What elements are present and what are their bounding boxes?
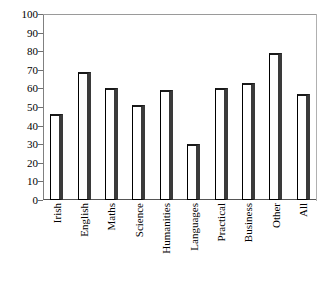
x-axis-tick-label: Irish (51, 203, 62, 223)
bar-slot (269, 14, 282, 200)
y-axis-tick-label: 20 (4, 157, 38, 168)
bar-slot (187, 14, 200, 200)
y-axis-tick-mark (38, 33, 43, 34)
y-axis-tick-mark (38, 14, 43, 15)
y-axis-tick-mark (38, 181, 43, 182)
x-axis-label-slot: Maths (98, 203, 125, 286)
x-axis-tick-label: Maths (106, 203, 117, 231)
bar-slot (105, 14, 118, 200)
y-axis-tick-label: 60 (4, 83, 38, 94)
bar (297, 94, 310, 200)
y-axis-tick-label: 40 (4, 120, 38, 131)
y-axis-tick-mark (38, 107, 43, 108)
x-axis-label-slot: Languages (180, 203, 207, 286)
bar (187, 144, 200, 200)
x-axis-label-slot: Other (262, 203, 289, 286)
bar (50, 114, 63, 200)
y-axis-tick-label: 0 (4, 195, 38, 206)
x-axis-labels: IrishEnglishMathsScienceHumanitiesLangua… (43, 203, 317, 286)
caption-remnant (30, 0, 150, 5)
bar-slot (160, 14, 173, 200)
bar-slot (297, 14, 310, 200)
x-axis-tick-label: Other (270, 203, 281, 228)
x-axis-tick-label: Humanities (161, 203, 172, 254)
y-axis-tick-mark (38, 51, 43, 52)
bar-series (43, 14, 317, 200)
y-axis-tick-mark (38, 70, 43, 71)
x-axis-label-slot: Science (125, 203, 152, 286)
y-axis-tick-label: 80 (4, 46, 38, 57)
x-axis-tick-label: All (298, 203, 309, 217)
y-axis-tick-label: 100 (4, 9, 38, 20)
x-axis-tick-label: Practical (216, 203, 227, 241)
y-axis-tick-label: 70 (4, 64, 38, 75)
y-axis-tick-mark (38, 163, 43, 164)
bar (160, 90, 173, 200)
y-axis-tick-label: 10 (4, 176, 38, 187)
x-axis-label-slot: Irish (43, 203, 70, 286)
bar (105, 88, 118, 200)
bar (269, 53, 282, 200)
bar-slot (132, 14, 145, 200)
x-axis-label-slot: Practical (207, 203, 234, 286)
x-axis-tick-label: Business (243, 203, 254, 242)
bar-chart-figure: 1009080706050403020100 IrishEnglishMaths… (0, 0, 323, 286)
bar (78, 72, 91, 200)
x-axis-label-slot: Humanities (153, 203, 180, 286)
y-axis-tick-label: 50 (4, 102, 38, 113)
x-axis-tick-label: English (79, 203, 90, 237)
x-axis-label-slot: Business (235, 203, 262, 286)
x-axis-label-slot: English (70, 203, 97, 286)
y-axis-tick-label: 30 (4, 139, 38, 150)
bar (215, 88, 228, 200)
bar (132, 105, 145, 200)
y-axis-tick-mark (38, 88, 43, 89)
bar-slot (242, 14, 255, 200)
bar (242, 83, 255, 200)
bar-slot (50, 14, 63, 200)
y-axis-tick-mark (38, 144, 43, 145)
x-axis-tick-label: Science (133, 203, 144, 237)
x-axis-tick-label: Languages (188, 203, 199, 251)
x-axis-label-slot: All (290, 203, 317, 286)
bar-slot (215, 14, 228, 200)
bar-slot (78, 14, 91, 200)
y-axis-tick-mark (38, 126, 43, 127)
y-axis: 1009080706050403020100 (0, 0, 38, 286)
y-axis-tick-label: 90 (4, 27, 38, 38)
y-axis-tick-mark (38, 200, 43, 201)
